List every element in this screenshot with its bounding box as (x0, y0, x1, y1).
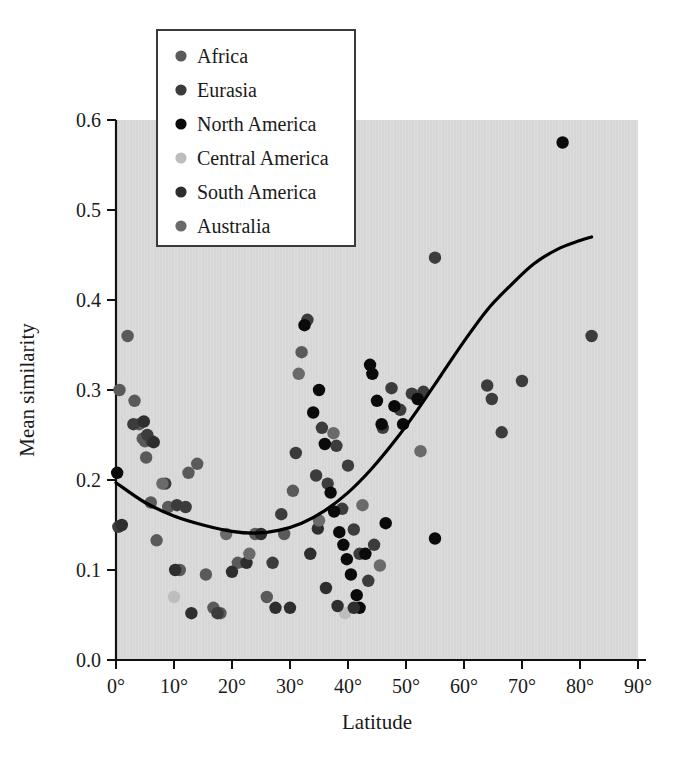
data-point (140, 451, 152, 463)
data-point (320, 582, 332, 594)
data-point (324, 486, 336, 498)
data-point (414, 445, 426, 457)
data-point (585, 330, 597, 342)
x-tick-label: 0° (107, 675, 125, 697)
y-tick-label: 0.0 (76, 649, 101, 671)
data-point (150, 534, 162, 546)
data-point (362, 575, 374, 587)
legend-item-south-america[interactable]: South America (175, 181, 316, 203)
data-point (179, 501, 191, 513)
data-point (226, 566, 238, 578)
x-tick-label: 40° (334, 675, 362, 697)
y-tick-label: 0.6 (76, 109, 101, 131)
data-point (481, 379, 493, 391)
data-point (293, 368, 305, 380)
data-point (156, 477, 168, 489)
legend-marker-icon (175, 118, 186, 129)
data-point (366, 368, 378, 380)
data-point (287, 485, 299, 497)
data-point (331, 600, 343, 612)
data-point (128, 395, 140, 407)
data-point (337, 539, 349, 551)
legend-label: South America (197, 181, 317, 203)
data-point (388, 400, 400, 412)
data-point (191, 458, 203, 470)
data-point (385, 382, 397, 394)
data-point (356, 499, 368, 511)
x-tick-label: 80° (566, 675, 594, 697)
data-point (348, 602, 360, 614)
data-point (169, 564, 181, 576)
x-tick-label: 50° (392, 675, 420, 697)
legend-marker-icon (175, 186, 186, 197)
data-point (275, 508, 287, 520)
data-point (304, 548, 316, 560)
data-point (342, 459, 354, 471)
chart-canvas: 0°10°20°30°40°50°60°70°80°90° 0.00.10.20… (0, 0, 688, 761)
data-point (307, 406, 319, 418)
data-point (374, 559, 386, 571)
data-point (200, 568, 212, 580)
x-tick-label: 90° (624, 675, 652, 697)
data-point (368, 539, 380, 551)
data-point (127, 418, 139, 430)
data-point (298, 319, 310, 331)
data-point (313, 384, 325, 396)
data-point (429, 252, 441, 264)
data-point (310, 469, 322, 481)
data-point (380, 517, 392, 529)
legend-item-north-america[interactable]: North America (175, 113, 316, 135)
data-point (168, 591, 180, 603)
data-point (348, 523, 360, 535)
x-tick-label: 20° (218, 675, 246, 697)
data-point (556, 136, 568, 148)
x-axis-label: Latitude (342, 710, 412, 734)
legend-marker-icon (175, 50, 186, 61)
x-tick-label: 30° (276, 675, 304, 697)
legend-label: Eurasia (197, 79, 257, 101)
data-point (284, 602, 296, 614)
data-point (148, 436, 160, 448)
data-point (516, 375, 528, 387)
legend[interactable]: AfricaEurasiaNorth AmericaCentral Americ… (157, 30, 355, 246)
data-point (351, 589, 363, 601)
y-tick-label: 0.1 (76, 559, 101, 581)
legend-label: North America (197, 113, 317, 135)
data-point (375, 418, 387, 430)
data-point (316, 422, 328, 434)
x-tick-label: 70° (508, 675, 536, 697)
data-point (371, 395, 383, 407)
data-point (359, 548, 371, 560)
y-tick-label: 0.5 (76, 199, 101, 221)
data-point (429, 532, 441, 544)
legend-marker-icon (175, 152, 186, 163)
x-tick-label: 10° (160, 675, 188, 697)
y-tick-label: 0.2 (76, 469, 101, 491)
y-tick-label: 0.3 (76, 379, 101, 401)
legend-marker-icon (175, 220, 186, 231)
legend-label: Australia (197, 215, 270, 237)
data-point (266, 557, 278, 569)
data-point (496, 426, 508, 438)
data-point (113, 384, 125, 396)
data-point (111, 467, 123, 479)
legend-marker-icon (175, 84, 186, 95)
data-point (341, 553, 353, 565)
data-point (333, 526, 345, 538)
data-point (486, 393, 498, 405)
data-point (295, 346, 307, 358)
data-point (138, 415, 150, 427)
legend-label: Central America (197, 147, 329, 169)
data-point (121, 330, 133, 342)
data-point (182, 467, 194, 479)
y-axis-label: Mean similarity (15, 323, 39, 457)
data-point (327, 427, 339, 439)
legend-box (157, 30, 355, 246)
data-point (269, 602, 281, 614)
data-point (211, 607, 223, 619)
y-tick-label: 0.4 (76, 289, 101, 311)
data-point (330, 440, 342, 452)
data-point (319, 438, 331, 450)
legend-item-central-america[interactable]: Central America (175, 147, 328, 169)
data-point (261, 591, 273, 603)
